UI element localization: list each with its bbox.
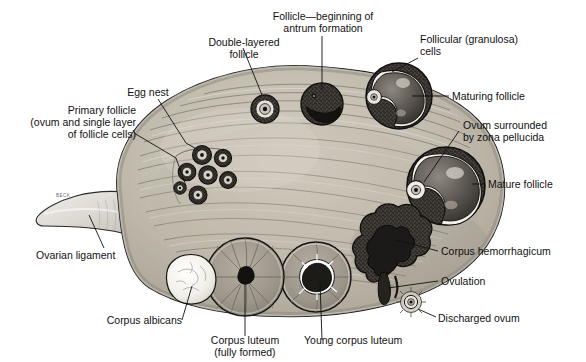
label-corpus-albicans: Corpus albicans bbox=[72, 314, 182, 326]
leader-corpus-hemorrhagicum bbox=[396, 240, 438, 251]
label-corpus-hemorrhagicum: Corpus hemorrhagicum bbox=[441, 245, 586, 257]
label-discharged-ovum: Discharged ovum bbox=[438, 312, 568, 324]
leader-egg-nest bbox=[158, 99, 200, 151]
figure-canvas: Double-layered follicle Follicle—beginni… bbox=[0, 0, 586, 362]
leader-discharged-ovum bbox=[418, 309, 436, 317]
leader-ovulation bbox=[388, 281, 438, 288]
label-zona-pellucida: Ovum surrounded by zona pellucida bbox=[463, 119, 586, 143]
label-corpus-luteum: Corpus luteum (fully formed) bbox=[188, 334, 302, 358]
label-ovarian-ligament: Ovarian ligament bbox=[36, 249, 156, 261]
label-ovulation: Ovulation bbox=[441, 275, 541, 287]
label-maturing-follicle: Maturing follicle bbox=[452, 90, 582, 102]
label-granulosa-cells: Follicular (granulosa) cells bbox=[420, 33, 570, 57]
label-primary-follicle: Primary follicle (ovum and single layer … bbox=[4, 104, 136, 141]
label-egg-nest: Egg nest bbox=[116, 86, 180, 98]
leader-young-corpus-luteum bbox=[320, 282, 322, 340]
label-mature-follicle: Mature follicle bbox=[488, 178, 586, 190]
leader-zona-pellucida bbox=[424, 131, 459, 182]
label-antrum-formation: Follicle—beginning of antrum formation bbox=[258, 10, 388, 34]
leader-ovarian-ligament bbox=[89, 215, 104, 248]
label-double-layered-follicle: Double-layered follicle bbox=[184, 36, 304, 60]
leader-primary-follicle bbox=[134, 133, 186, 186]
leader-corpus-albicans bbox=[182, 286, 192, 320]
artist-signature: BECK bbox=[56, 193, 70, 198]
leader-granulosa-cells bbox=[392, 58, 418, 72]
label-young-corpus-luteum: Young corpus luteum bbox=[304, 334, 434, 346]
